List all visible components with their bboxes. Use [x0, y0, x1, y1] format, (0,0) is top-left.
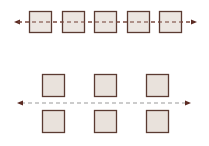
box	[43, 111, 65, 133]
box	[160, 12, 182, 33]
box	[43, 75, 65, 97]
box	[95, 75, 117, 97]
box	[95, 111, 117, 133]
box	[147, 75, 169, 97]
arrow-right-icon	[191, 20, 197, 25]
arrow-right-icon	[185, 101, 191, 106]
bottom-box-grid-group	[17, 75, 191, 133]
diagram-canvas	[0, 0, 209, 146]
arrow-left-icon	[17, 101, 23, 106]
box	[147, 111, 169, 133]
top-box-row-group	[14, 12, 197, 33]
